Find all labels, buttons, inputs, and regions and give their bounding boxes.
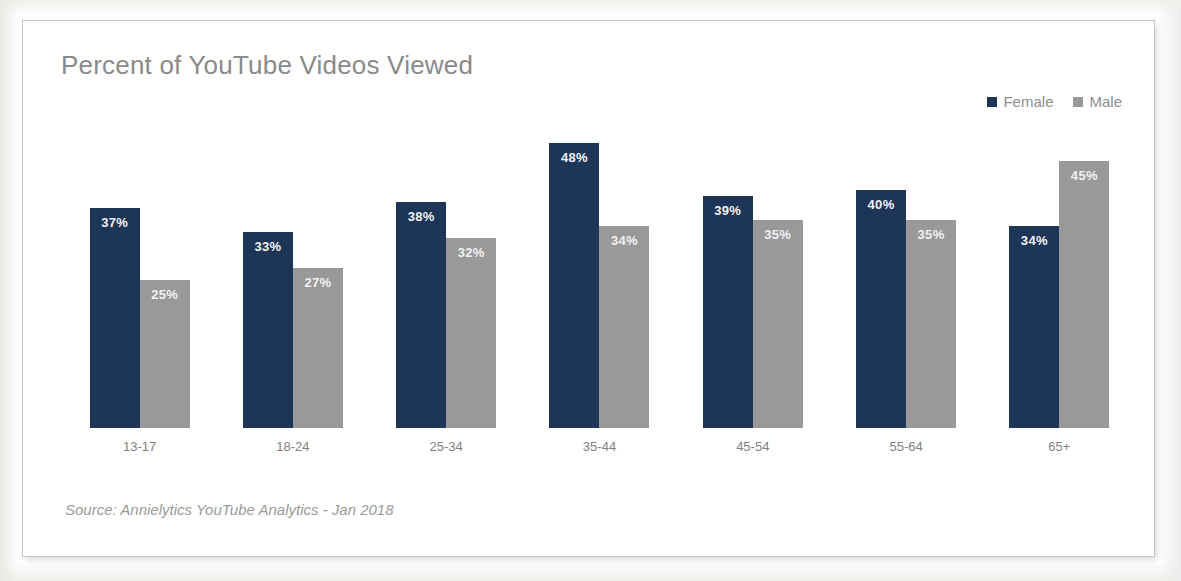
bar-group: 37%25%13-17 [63, 131, 216, 428]
bar-female[interactable]: 33% [243, 232, 293, 428]
bar-male[interactable]: 25% [140, 280, 190, 429]
bar-value-label: 39% [703, 203, 753, 218]
bar-pair: 40%35% [856, 131, 956, 428]
legend-item-male[interactable]: Male [1073, 93, 1122, 110]
bar-groups: 37%25%13-1733%27%18-2438%32%25-3448%34%3… [63, 131, 1136, 428]
square-marker-icon [987, 97, 997, 107]
bar-value-label: 34% [599, 233, 649, 248]
bar-male[interactable]: 32% [446, 238, 496, 428]
plot-area: 37%25%13-1733%27%18-2438%32%25-3448%34%3… [63, 131, 1136, 458]
bar-male[interactable]: 34% [599, 226, 649, 428]
bar-male[interactable]: 35% [753, 220, 803, 428]
bar-female[interactable]: 39% [703, 196, 753, 428]
bar-pair: 39%35% [703, 131, 803, 428]
bar-group: 33%27%18-24 [216, 131, 369, 428]
bar-value-label: 38% [396, 209, 446, 224]
scanned-page: Percent of YouTube Videos Viewed Female … [0, 0, 1181, 581]
x-axis-tick-label: 65+ [983, 439, 1136, 454]
x-axis-tick-label: 25-34 [370, 439, 523, 454]
bar-group: 40%35%55-64 [829, 131, 982, 428]
square-marker-icon [1073, 97, 1083, 107]
x-axis-tick-label: 55-64 [829, 439, 982, 454]
bar-value-label: 48% [549, 150, 599, 165]
bar-value-label: 34% [1009, 233, 1059, 248]
bar-value-label: 35% [906, 227, 956, 242]
bar-female[interactable]: 37% [90, 208, 140, 428]
legend-item-female[interactable]: Female [987, 93, 1053, 110]
x-axis-tick-label: 18-24 [216, 439, 369, 454]
bar-value-label: 25% [140, 287, 190, 302]
bar-female[interactable]: 38% [396, 202, 446, 428]
legend-label-female: Female [1003, 93, 1053, 110]
bar-female[interactable]: 48% [549, 143, 599, 428]
bar-male[interactable]: 27% [293, 268, 343, 428]
x-axis-tick-label: 45-54 [676, 439, 829, 454]
bar-value-label: 45% [1059, 168, 1109, 183]
bar-male[interactable]: 35% [906, 220, 956, 428]
bar-female[interactable]: 34% [1009, 226, 1059, 428]
bar-female[interactable]: 40% [856, 190, 906, 428]
bar-pair: 33%27% [243, 131, 343, 428]
bar-male[interactable]: 45% [1059, 161, 1109, 428]
source-note: Source: Annielytics YouTube Analytics - … [65, 501, 394, 518]
bar-group: 34%45%65+ [983, 131, 1136, 428]
bar-pair: 48%34% [549, 131, 649, 428]
legend-label-male: Male [1089, 93, 1122, 110]
x-axis-tick-label: 35-44 [523, 439, 676, 454]
chart-frame: Percent of YouTube Videos Viewed Female … [22, 20, 1155, 557]
bar-pair: 38%32% [396, 131, 496, 428]
bar-group: 38%32%25-34 [370, 131, 523, 428]
bar-value-label: 32% [446, 245, 496, 260]
bar-group: 48%34%35-44 [523, 131, 676, 428]
bar-pair: 37%25% [90, 131, 190, 428]
bar-value-label: 37% [90, 215, 140, 230]
bar-value-label: 27% [293, 275, 343, 290]
bar-group: 39%35%45-54 [676, 131, 829, 428]
page-title: Percent of YouTube Videos Viewed [61, 50, 473, 81]
bar-value-label: 40% [856, 197, 906, 212]
bar-value-label: 35% [753, 227, 803, 242]
chart-legend: Female Male [987, 93, 1122, 110]
bar-value-label: 33% [243, 239, 293, 254]
x-axis-tick-label: 13-17 [63, 439, 216, 454]
bar-pair: 34%45% [1009, 131, 1109, 428]
